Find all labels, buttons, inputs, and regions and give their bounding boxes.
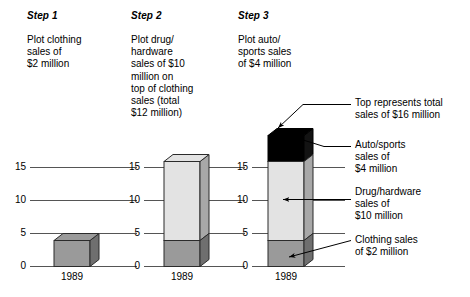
panel-3-ytick-0: 0 xyxy=(224,260,248,271)
panel-1-ytick-15: 15 xyxy=(2,161,26,172)
panel-1-ytick-10: 10 xyxy=(2,194,26,205)
panel-2-ytick-15: 15 xyxy=(116,161,140,172)
panel-1-ytick-0: 0 xyxy=(2,260,26,271)
panel-3-xtick-year: 1989 xyxy=(258,271,314,282)
callout-total-leader xyxy=(278,105,351,129)
panel-1-bar-1989 xyxy=(54,234,99,267)
panel-3-bar-1989 xyxy=(268,129,313,267)
panel-2-xtick-year: 1989 xyxy=(154,271,210,282)
callout-total-sales: Top represents total sales of $16 millio… xyxy=(355,97,470,121)
panel-1-ytick-5: 5 xyxy=(2,227,26,238)
callout-drug-hardware: Drug/hardware sales of $10 million xyxy=(355,186,465,223)
panel-2-ytick-10: 10 xyxy=(116,194,140,205)
panel-1-xtick-year: 1989 xyxy=(44,271,100,282)
panel-2-bar-1989 xyxy=(164,155,209,267)
panel-3-ytick-5: 5 xyxy=(224,227,248,238)
callout-clothing: Clothing sales of $2 million xyxy=(355,234,465,258)
panel-2-ytick-0: 0 xyxy=(116,260,140,271)
figure-stacked-bar-steps: Step 1 Step 2 Step 3 Plot clothing sales… xyxy=(0,0,470,297)
panel-2-ytick-5: 5 xyxy=(116,227,140,238)
panel-3-ytick-10: 10 xyxy=(224,194,248,205)
callout-auto-sports: Auto/sports sales of $4 million xyxy=(355,139,465,176)
panel-3-ytick-15: 15 xyxy=(224,161,248,172)
